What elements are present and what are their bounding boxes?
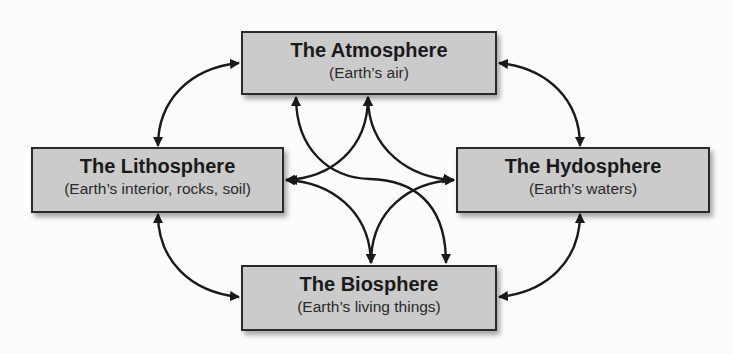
arrow-atmosphere-hydrosphere-inner — [368, 97, 454, 180]
hydrosphere-subtitle: (Earth’s waters) — [458, 178, 708, 200]
arrow-hydrosphere-biosphere — [499, 214, 580, 297]
biosphere-box: The Biosphere (Earth’s living things) — [241, 265, 497, 331]
lithosphere-box: The Lithosphere (Earth’s interior, rocks… — [31, 147, 284, 213]
atmosphere-subtitle: (Earth’s air) — [243, 62, 495, 84]
atmosphere-title: The Atmosphere — [243, 38, 495, 62]
biosphere-title: The Biosphere — [243, 272, 495, 296]
arrow-hydrosphere-biosphere-inner — [371, 180, 454, 263]
hydrosphere-box: The Hydosphere (Earth’s waters) — [456, 147, 710, 213]
arrow-lithosphere-biosphere-inner — [286, 180, 371, 263]
lithosphere-subtitle: (Earth’s interior, rocks, soil) — [33, 178, 282, 200]
atmosphere-box: The Atmosphere (Earth’s air) — [241, 31, 497, 95]
arrow-atmosphere-hydrosphere — [499, 63, 580, 146]
lithosphere-title: The Lithosphere — [33, 154, 282, 178]
hydrosphere-title: The Hydosphere — [458, 154, 708, 178]
arrow-atmosphere-lithosphere-inner — [286, 97, 368, 180]
arrow-lithosphere-biosphere — [158, 214, 239, 297]
arrow-atmosphere-lithosphere — [158, 63, 239, 146]
biosphere-subtitle: (Earth’s living things) — [243, 296, 495, 318]
